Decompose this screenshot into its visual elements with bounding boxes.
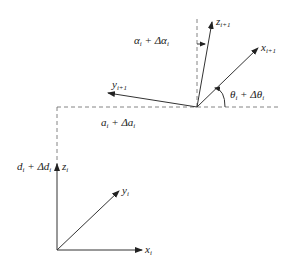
- label-z-i: zi: [61, 160, 68, 174]
- label-a: ai + Δai: [101, 116, 135, 130]
- label-alpha: αi + Δαi: [134, 34, 169, 48]
- label-x-i1: xi+1: [260, 41, 276, 55]
- axis-y-i: [57, 191, 119, 250]
- label-y-i1: yi+1: [111, 78, 127, 92]
- label-y-i: yi: [121, 184, 129, 198]
- dh-parameter-diagram: zi xi yi zi+1 xi+1 yi+1 αi + Δαi ai + Δa…: [0, 0, 290, 273]
- axis-y-i1: [108, 93, 197, 107]
- label-theta: θi + Δθi: [230, 88, 264, 102]
- label-z-i1: zi+1: [215, 15, 230, 29]
- label-x-i: xi: [144, 243, 152, 257]
- theta-angle-arc: [215, 88, 225, 107]
- label-d: di + Δdi: [17, 160, 51, 174]
